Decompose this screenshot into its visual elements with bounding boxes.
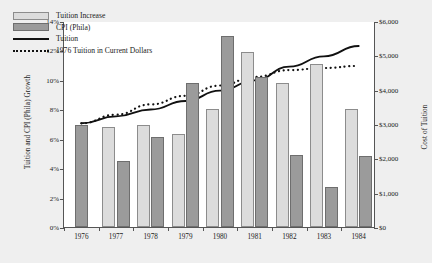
bar-cpi-phila xyxy=(325,187,338,227)
bar-cpi-phila xyxy=(117,161,130,227)
y-axis-left-tick-label: 4% xyxy=(50,165,59,173)
y-axis-right-tick-label: $0 xyxy=(379,224,386,232)
x-axis-tick-mark xyxy=(307,227,308,231)
legend-swatch-tuition-increase xyxy=(13,12,49,20)
y-axis-right-tick-label: $2,000 xyxy=(379,155,398,163)
y-axis-left-title: Tuition and CPI (Phila) Growth xyxy=(24,42,32,202)
legend-swatch-cpi-phila xyxy=(13,23,49,31)
legend-item: Tuition Increase xyxy=(13,10,152,22)
bar-tuition-increase xyxy=(137,125,150,227)
y-axis-left-tick-mark xyxy=(60,169,64,170)
y-axis-right-tick-label: $3,000 xyxy=(379,121,398,129)
legend-line-tuition xyxy=(13,35,49,43)
y-axis-right-tick-mark xyxy=(374,56,378,57)
legend-item-label: Tuition xyxy=(56,33,78,45)
x-axis-tick-mark xyxy=(272,227,273,231)
y-axis-right-tick-mark xyxy=(374,194,378,195)
y-axis-left-tick-label: 8% xyxy=(50,106,59,114)
bar-tuition-increase xyxy=(345,109,358,227)
legend-line-1976-tuition xyxy=(13,47,49,55)
y-axis-right-tick-mark xyxy=(374,125,378,126)
y-axis-right-tick-mark xyxy=(374,159,378,160)
bar-tuition-increase xyxy=(102,127,115,227)
x-axis-tick-mark xyxy=(133,227,134,231)
y-axis-left-tick-mark xyxy=(60,110,64,111)
bar-tuition-increase xyxy=(241,52,254,227)
legend-item: CPI (Phila) xyxy=(13,22,152,34)
y-axis-right-tick-label: $1,000 xyxy=(379,190,398,198)
bar-tuition-increase xyxy=(172,134,185,227)
legend-item-label: Tuition Increase xyxy=(56,10,105,22)
bar-cpi-phila xyxy=(151,137,164,227)
x-axis-tick-label: 1976 xyxy=(74,233,88,241)
y-axis-left-tick-label: 2% xyxy=(50,195,59,203)
y-axis-right-tick-label: $5,000 xyxy=(379,52,398,60)
y-axis-right-title: Cost of Tuition xyxy=(421,57,429,197)
x-axis-tick-label: 1980 xyxy=(213,233,227,241)
x-axis-tick-label: 1984 xyxy=(351,233,365,241)
y-axis-left-tick-mark xyxy=(60,81,64,82)
legend-item-label: 1976 Tuition in Current Dollars xyxy=(56,45,152,57)
x-axis-tick-label: 1977 xyxy=(109,233,123,241)
x-axis-tick-mark xyxy=(203,227,204,231)
y-axis-left-tick-label: 0% xyxy=(50,224,59,232)
legend-item: 1976 Tuition in Current Dollars xyxy=(13,45,152,57)
y-axis-left-tick-label: 6% xyxy=(50,136,59,144)
y-axis-right-tick-label: $4,000 xyxy=(379,87,398,95)
chart-container: Tuition and CPI (Phila) Growth Cost of T… xyxy=(0,0,432,263)
x-axis-tick-label: 1981 xyxy=(247,233,261,241)
bar-cpi-phila xyxy=(75,125,88,227)
x-axis-tick-mark xyxy=(237,227,238,231)
y-axis-left-tick-mark xyxy=(60,140,64,141)
x-axis-tick-label: 1978 xyxy=(143,233,157,241)
bar-cpi-phila xyxy=(359,156,372,227)
bar-tuition-increase xyxy=(276,83,289,227)
y-axis-right-tick-label: $6,000 xyxy=(379,18,398,26)
x-axis-tick-mark xyxy=(99,227,100,231)
y-axis-left-tick-label: 10% xyxy=(46,77,59,85)
legend-item: Tuition xyxy=(13,33,152,45)
x-axis-tick-label: 1979 xyxy=(178,233,192,241)
bar-cpi-phila xyxy=(255,77,268,227)
bar-tuition-increase xyxy=(206,109,219,227)
x-axis-tick-label: 1982 xyxy=(282,233,296,241)
y-axis-left-tick-mark xyxy=(60,199,64,200)
y-axis-right-tick-mark xyxy=(374,22,378,23)
bar-cpi-phila xyxy=(186,83,199,227)
y-axis-right-tick-mark xyxy=(374,91,378,92)
x-axis-tick-mark xyxy=(168,227,169,231)
bar-tuition-increase xyxy=(310,64,323,227)
bar-cpi-phila xyxy=(221,36,234,227)
x-axis-tick-label: 1983 xyxy=(317,233,331,241)
x-axis-tick-mark xyxy=(341,227,342,231)
bar-cpi-phila xyxy=(290,155,303,227)
legend-item-label: CPI (Phila) xyxy=(56,22,90,34)
chart-legend: Tuition IncreaseCPI (Phila)Tuition1976 T… xyxy=(13,10,152,56)
x-axis-tick-mark xyxy=(64,227,65,231)
y-axis-right-tick-mark xyxy=(374,228,378,229)
